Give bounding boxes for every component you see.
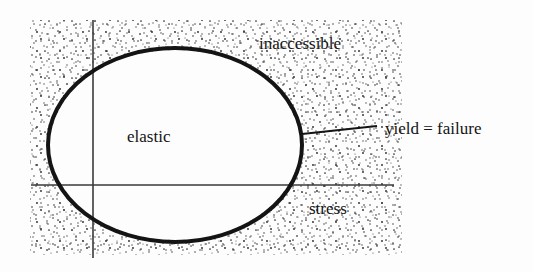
yield-surface-figure: inaccessible elastic stress yield = fail… (0, 0, 533, 272)
yield-failure-callout-label: yield = failure (385, 120, 481, 137)
elastic-region-label: elastic (127, 128, 170, 145)
stress-axis-label: stress (309, 200, 347, 217)
inaccessible-region-label: inaccessible (259, 35, 341, 52)
